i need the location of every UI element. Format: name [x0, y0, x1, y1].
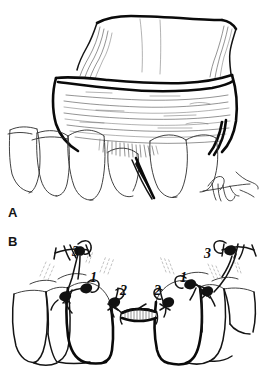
surgical-illustration-figure: A B	[0, 0, 266, 375]
annotation-label-1-left: 1	[90, 270, 97, 285]
annotation-label-2-right: 2	[153, 283, 161, 298]
annotation-label-3-right: 3	[203, 246, 211, 261]
annotation-label-1-right: 1	[180, 270, 187, 285]
reflected-flap	[77, 16, 236, 82]
annotation-label-2-left: 2	[119, 283, 127, 298]
annotation-label-3-left: 3	[71, 244, 79, 259]
figure-canvas: A B	[0, 0, 266, 375]
panel-a-label: A	[8, 205, 18, 220]
panel-b-label: B	[8, 234, 17, 249]
